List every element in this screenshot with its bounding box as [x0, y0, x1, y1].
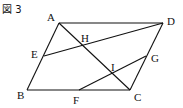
point-label-H: H	[81, 32, 89, 44]
point-label-F: F	[73, 94, 79, 106]
segments	[27, 23, 163, 90]
point-label-I: I	[111, 61, 115, 73]
segment-AC	[59, 23, 130, 90]
point-label-D: D	[167, 15, 175, 27]
point-label-G: G	[151, 52, 159, 64]
figure-title: 図 3	[2, 4, 22, 15]
geometry-diagram: 図 3 ADBCEFGHI	[0, 0, 183, 108]
point-label-C: C	[134, 91, 141, 103]
point-label-E: E	[31, 48, 38, 60]
point-label-A: A	[47, 11, 55, 23]
segment-ED	[44, 23, 163, 56]
point-label-B: B	[17, 89, 24, 101]
